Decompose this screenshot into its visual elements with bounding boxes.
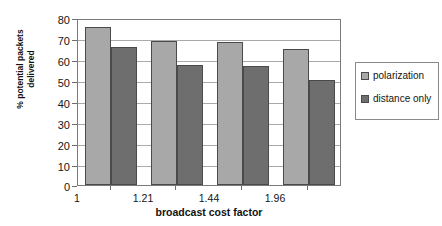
x-tick-mark-2 (241, 186, 242, 190)
legend-label-distance-only: distance only (373, 93, 431, 104)
bars-layer (78, 20, 340, 185)
bar-distance-only-1.21 (177, 65, 203, 185)
x-tick-mark-3 (307, 186, 308, 190)
bar-distance-only-1.96 (309, 80, 335, 185)
plot-area (77, 19, 341, 186)
x-tick-mark-1 (175, 186, 176, 190)
y-tick-label-20: 20 (44, 141, 70, 151)
y-tick-label-60: 60 (44, 57, 70, 67)
x-axis-title: broadcast cost factor (77, 206, 341, 218)
legend-swatch-icon-polarization (361, 72, 369, 80)
y-axis-title: % potential packets delivered (15, 9, 37, 129)
y-axis-title-line-1: % potential packets (15, 9, 26, 129)
x-tick-mark-0 (110, 186, 111, 190)
bar-distance-only-1.44 (243, 66, 269, 185)
legend: polarization distance only (355, 62, 439, 120)
y-tick-label-10: 10 (44, 162, 70, 172)
legend-swatch-icon-distance-only (361, 95, 369, 103)
y-tick-label-70: 70 (44, 36, 70, 46)
y-tick-label-50: 50 (44, 78, 70, 88)
bar-polarization-1.21 (151, 41, 177, 185)
y-tick-label-40: 40 (44, 99, 70, 109)
y-tick-mark-0 (72, 186, 77, 187)
legend-label-polarization: polarization (373, 70, 424, 81)
y-axis-title-line-2: delivered (26, 9, 37, 129)
bar-polarization-1 (85, 27, 111, 185)
legend-item-distance-only: distance only (361, 93, 438, 104)
y-tick-label-30: 30 (44, 120, 70, 130)
bar-polarization-1.44 (217, 42, 243, 185)
y-tick-label-80: 80 (44, 15, 70, 25)
y-tick-label-0: 0 (44, 182, 70, 192)
x-tick-label-3: 1.96 (245, 192, 305, 204)
x-tick-label-1: 1.21 (113, 192, 173, 204)
x-tick-label-2: 1.44 (179, 192, 239, 204)
legend-item-polarization: polarization (361, 70, 438, 81)
x-tick-label-0: 1 (47, 192, 107, 204)
bar-polarization-1.96 (283, 49, 309, 185)
bar-distance-only-1 (111, 47, 137, 185)
bar-chart: % potential packets delivered 80 70 60 5… (0, 0, 442, 226)
